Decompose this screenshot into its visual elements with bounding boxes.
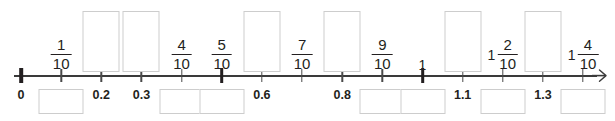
whole-part: 1 (488, 48, 496, 62)
fraction-label: 510 (211, 37, 232, 72)
fraction-numerator: 7 (296, 37, 308, 54)
answer-box-decimal[interactable] (400, 89, 445, 114)
fraction-label: 410 (171, 37, 192, 72)
fraction-numerator: 5 (216, 37, 228, 54)
decimal-label: 1.1 (454, 89, 471, 102)
fraction-numerator: 9 (376, 37, 388, 54)
answer-box-decimal[interactable] (480, 89, 525, 114)
decimal-label: 0.6 (253, 89, 270, 102)
fraction-label: 110 (51, 37, 72, 72)
fraction-label: 1 (419, 57, 427, 72)
decimal-label: 0.8 (333, 89, 350, 102)
fraction-denominator: 10 (578, 55, 599, 72)
fraction-label: 1210 (488, 37, 518, 72)
fraction: 710 (292, 37, 313, 72)
fraction-denominator: 10 (372, 55, 393, 72)
fraction-numerator: 4 (175, 37, 187, 54)
answer-box-decimal[interactable] (199, 89, 244, 114)
answer-box-fraction[interactable] (123, 11, 160, 72)
fraction: 410 (171, 37, 192, 72)
answer-box-decimal[interactable] (360, 89, 405, 114)
fraction: 110 (51, 37, 72, 72)
fraction-denominator: 10 (51, 55, 72, 72)
whole-part: 1 (568, 48, 576, 62)
tick-mark-bold (19, 68, 23, 83)
answer-box-fraction[interactable] (324, 11, 361, 72)
fraction-label: 710 (292, 37, 313, 72)
number-line-worksheet: 110410510710910112101410 00.20.30.60.81.… (0, 0, 615, 121)
decimal-label: 0.2 (93, 89, 110, 102)
fraction: 510 (211, 37, 232, 72)
mixed-number: 510 (211, 37, 232, 72)
fraction-denominator: 10 (497, 55, 518, 72)
answer-box-fraction[interactable] (444, 11, 481, 72)
fraction-label: 910 (372, 37, 393, 72)
decimal-label: 0 (18, 89, 25, 102)
fraction-label: 1410 (568, 37, 598, 72)
answer-box-decimal[interactable] (39, 89, 84, 114)
mixed-number: 1210 (488, 37, 518, 72)
mixed-number: 410 (171, 37, 192, 72)
fraction: 410 (578, 37, 599, 72)
answer-box-decimal[interactable] (159, 89, 204, 114)
fraction: 910 (372, 37, 393, 72)
fraction-denominator: 10 (292, 55, 313, 72)
fraction-numerator: 1 (55, 37, 67, 54)
mixed-number: 110 (51, 37, 72, 72)
fraction: 210 (497, 37, 518, 72)
answer-box-fraction[interactable] (83, 11, 120, 72)
mixed-number: 1410 (568, 37, 598, 72)
fraction-numerator: 2 (502, 37, 514, 54)
decimal-label: 0.3 (133, 89, 150, 102)
mixed-number: 1 (419, 58, 427, 72)
answer-box-fraction[interactable] (524, 11, 561, 72)
whole-part: 1 (419, 58, 427, 72)
mixed-number: 710 (292, 37, 313, 72)
fraction-denominator: 10 (171, 55, 192, 72)
answer-box-fraction[interactable] (243, 11, 280, 72)
fraction-numerator: 4 (582, 37, 594, 54)
fraction-denominator: 10 (211, 55, 232, 72)
decimal-label: 1.3 (534, 89, 551, 102)
mixed-number: 910 (372, 37, 393, 72)
answer-box-decimal[interactable] (561, 89, 606, 114)
